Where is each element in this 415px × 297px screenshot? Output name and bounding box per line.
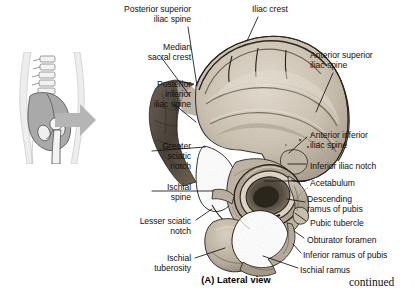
label-descending-ramus-of-pubis: Descending ramus of pubis (307, 194, 415, 214)
label-posterior-superior-iliac-spine: Posterior superior iliac spine (81, 4, 191, 24)
label-pubic-tubercle: Pubic tubercle (310, 218, 415, 228)
orientation-inset-drawing (20, 52, 85, 164)
label-ischial-ramus: Ischial ramus (300, 265, 412, 275)
label-inferior-iliac-notch: Inferior iliac notch (310, 161, 415, 171)
label-acetabulum: Acetabulum (310, 178, 415, 188)
label-anterior-inferior-iliac-spine: Anterior inferior iliac spine (310, 130, 415, 150)
continued-note: continued (349, 276, 394, 288)
label-greater-sciatic-notch: Greater sciatic notch (83, 141, 191, 172)
leader-lesser-sciatic-notch (196, 209, 212, 220)
label-ischial-tuberosity: Ischial tuberosity (83, 253, 191, 273)
label-anterior-superior-iliac-spine: Anterior superior iliac spine (310, 50, 415, 70)
label-ischial-spine: Ischial spine (83, 182, 191, 202)
label-inferior-ramus-of-pubis: Inferior ramus of pubis (303, 250, 415, 260)
figure-caption: (A) Lateral view (176, 275, 296, 285)
anatomy-figure: Posterior superior iliac spineIliac cres… (0, 0, 415, 297)
leader-inferior-ramus-of-pubis (293, 244, 301, 253)
label-iliac-crest: Iliac crest (252, 4, 322, 14)
label-median-sacral-crest: Median sacral crest (83, 42, 191, 62)
label-posterior-inferior-iliac-spine: Posterior inferior iliac spine (83, 79, 191, 110)
label-obturator-foramen: Obturator foramen (307, 235, 415, 245)
label-lesser-sciatic-notch: Lesser sciatic notch (70, 216, 191, 236)
